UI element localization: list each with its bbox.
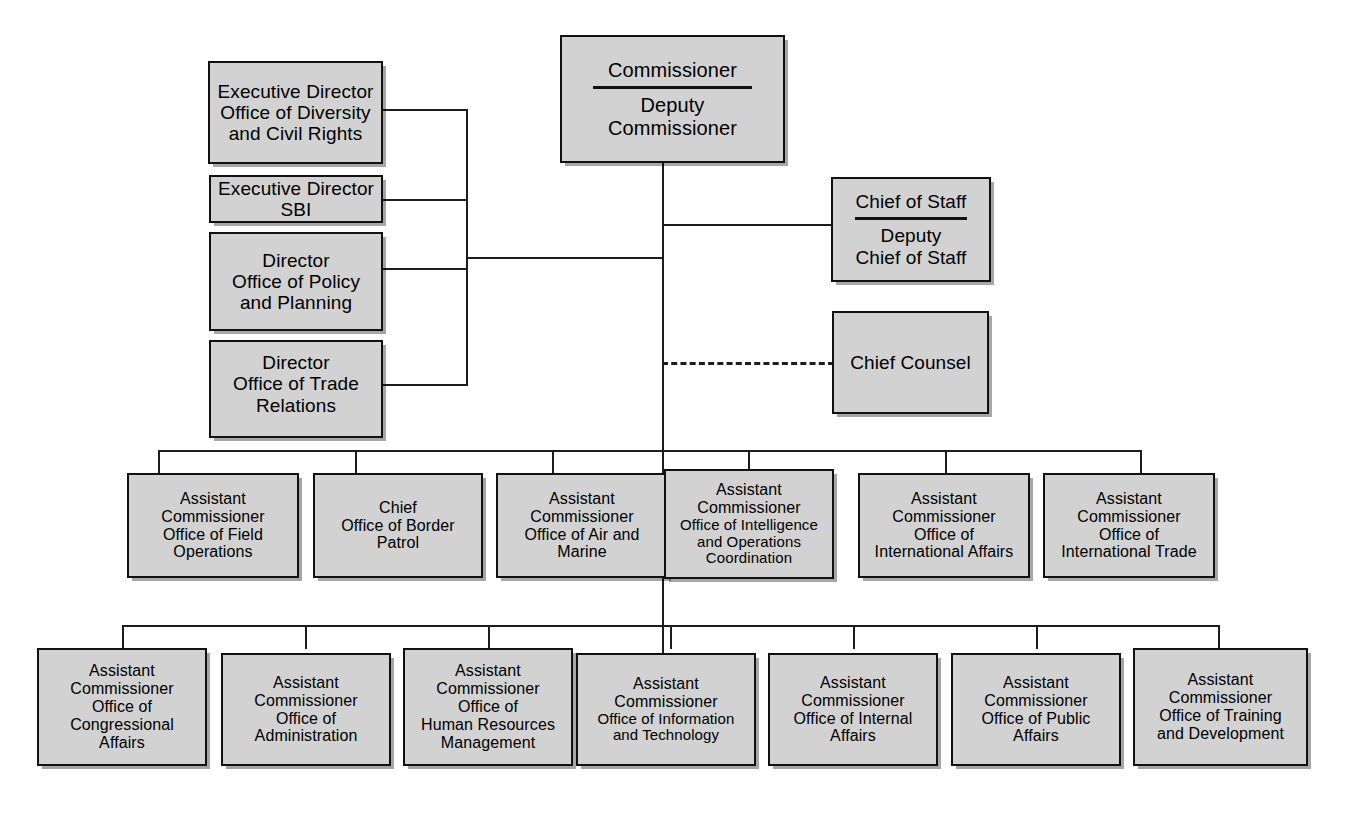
box-line-1: Director	[211, 352, 381, 373]
box-line-2: Commissioner	[498, 508, 666, 526]
box-line-4: International Affairs	[860, 543, 1028, 561]
box-line-2: Commissioner	[129, 508, 297, 526]
box-director-trade-relations[interactable]: Director Office of Trade Relations	[209, 340, 383, 438]
box-line-1: Assistant	[39, 662, 205, 680]
box-line-2: Commissioner	[578, 693, 754, 711]
box-line-3: and Planning	[211, 292, 381, 313]
box-line-1: Assistant	[953, 674, 1119, 692]
box-office-of-information-and-technology[interactable]: Assistant Commissioner Office of Informa…	[576, 653, 756, 766]
box-line-2: Commissioner	[860, 508, 1028, 526]
box-line-2: Commissioner	[1045, 508, 1213, 526]
box-line-4: Affairs	[953, 727, 1119, 745]
box-line-3: Office of	[39, 698, 205, 716]
trunk-main-vertical	[662, 163, 664, 673]
box-line-2: Commissioner	[770, 692, 936, 710]
box-line-3: Office of Training	[1135, 707, 1306, 725]
box-chief-counsel[interactable]: Chief Counsel	[832, 311, 989, 414]
box-line-1: Assistant	[129, 490, 297, 508]
connector-diversity	[380, 109, 468, 111]
box-line-5: Coordination	[666, 550, 832, 567]
box-line-3: Office of Public	[953, 710, 1119, 728]
box-line-1: Assistant	[860, 490, 1028, 508]
box-line-4: Congressional	[39, 716, 205, 734]
box-office-of-intelligence-and-operations-coordination[interactable]: Assistant Commissioner Office of Intelli…	[664, 469, 834, 579]
box-line-4: Operations	[129, 543, 297, 561]
box-line-1: Assistant	[770, 674, 936, 692]
row2-drop-1	[122, 625, 124, 649]
connector-chief-of-staff	[662, 224, 832, 226]
box-office-of-border-patrol[interactable]: Chief Office of Border Patrol	[313, 473, 483, 578]
box-director-policy-planning[interactable]: Director Office of Policy and Planning	[209, 232, 383, 331]
box-line-3: and Civil Rights	[210, 123, 381, 144]
row1-bus-bar	[158, 450, 1142, 452]
commissioner-divider	[593, 86, 752, 89]
box-line-3: Office of Field	[129, 526, 297, 544]
box-line-4: Affairs	[770, 727, 936, 745]
connector-chief-counsel-dashed	[662, 362, 834, 365]
connector-left-bracket-to-trunk	[466, 257, 664, 259]
box-line-3: Office of	[1045, 526, 1213, 544]
box-line-2: Commissioner	[39, 680, 205, 698]
chief-counsel-title: Chief Counsel	[834, 352, 987, 373]
org-chart: Commissioner Deputy Commissioner Executi…	[0, 0, 1349, 821]
box-office-of-public-affairs[interactable]: Assistant Commissioner Office of Public …	[951, 653, 1121, 766]
box-office-of-internal-affairs[interactable]: Assistant Commissioner Office of Interna…	[768, 653, 938, 766]
row1-drop-5	[945, 450, 947, 474]
box-office-of-international-affairs[interactable]: Assistant Commissioner Office of Interna…	[858, 473, 1030, 578]
box-line-2: Commissioner	[666, 499, 832, 517]
box-office-of-administration[interactable]: Assistant Commissioner Office of Adminis…	[221, 653, 391, 766]
chief-of-staff-title: Chief of Staff	[833, 191, 989, 212]
box-executive-director-sbi[interactable]: Executive Director SBI	[209, 175, 383, 223]
box-office-of-air-and-marine[interactable]: Assistant Commissioner Office of Air and…	[496, 473, 668, 578]
box-office-of-congressional-affairs[interactable]: Assistant Commissioner Office of Congres…	[37, 648, 207, 766]
box-line-1: Assistant	[578, 675, 754, 693]
chief-of-staff-divider	[855, 217, 967, 220]
box-line-3: Office of Air and	[498, 526, 666, 544]
deputy-chief-of-staff-line1: Deputy	[833, 225, 989, 246]
box-line-3: Patrol	[315, 534, 481, 552]
box-line-3: Office of Information	[578, 711, 754, 728]
box-line-4: and Technology	[578, 727, 754, 744]
box-line-3: Relations	[211, 395, 381, 416]
row1-drop-1	[158, 450, 160, 474]
box-office-of-human-resources-management[interactable]: Assistant Commissioner Office of Human R…	[403, 648, 573, 766]
box-line-2: Commissioner	[405, 680, 571, 698]
commissioner-title: Commissioner	[562, 59, 783, 81]
box-office-of-international-trade[interactable]: Assistant Commissioner Office of Interna…	[1043, 473, 1215, 578]
box-line-1: Executive Director	[211, 178, 381, 199]
box-line-5: Management	[405, 734, 571, 752]
box-line-2: SBI	[211, 199, 381, 220]
deputy-commissioner-line2: Commissioner	[562, 117, 783, 139]
box-office-of-training-and-development[interactable]: Assistant Commissioner Office of Trainin…	[1133, 648, 1308, 766]
box-line-2: Office of Diversity	[210, 102, 381, 123]
row2-drop-5	[853, 625, 855, 649]
box-line-4: Human Resources	[405, 716, 571, 734]
box-line-1: Assistant	[405, 662, 571, 680]
box-line-2: Office of Policy	[211, 271, 381, 292]
box-office-of-field-operations[interactable]: Assistant Commissioner Office of Field O…	[127, 473, 299, 578]
box-chief-of-staff[interactable]: Chief of Staff Deputy Chief of Staff	[831, 177, 991, 282]
connector-trade-relations	[380, 384, 468, 386]
box-line-3: Office of	[223, 710, 389, 728]
box-line-1: Assistant	[223, 674, 389, 692]
box-line-1: Assistant	[498, 490, 666, 508]
row1-drop-3	[552, 450, 554, 474]
row2-drop-3	[488, 625, 490, 649]
box-line-4: Marine	[498, 543, 666, 561]
box-line-2: Commissioner	[1135, 689, 1306, 707]
box-line-1: Assistant	[1045, 490, 1213, 508]
box-line-5: Affairs	[39, 734, 205, 752]
box-line-1: Chief	[315, 499, 481, 517]
box-executive-director-diversity[interactable]: Executive Director Office of Diversity a…	[208, 61, 383, 164]
box-line-2: Commissioner	[223, 692, 389, 710]
box-line-4: Administration	[223, 727, 389, 745]
box-line-1: Assistant	[666, 481, 832, 499]
left-bracket-spine	[466, 109, 468, 386]
box-line-4: International Trade	[1045, 543, 1213, 561]
box-commissioner[interactable]: Commissioner Deputy Commissioner	[560, 35, 785, 163]
box-line-2: Office of Trade	[211, 373, 381, 394]
box-line-1: Assistant	[1135, 671, 1306, 689]
row2-drop-4	[670, 625, 672, 649]
row1-drop-2	[355, 450, 357, 474]
box-line-3: Office of	[860, 526, 1028, 544]
